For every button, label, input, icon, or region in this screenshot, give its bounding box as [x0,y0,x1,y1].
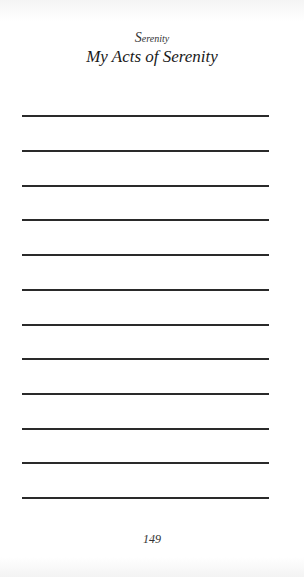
running-head-initial: S [135,30,142,45]
scan-bottom-edge [0,557,304,577]
writing-line [22,150,269,152]
writing-line [22,324,269,326]
writing-line [22,289,269,291]
page-title: My Acts of Serenity [0,47,304,67]
scan-top-edge [0,0,304,22]
page-number: 149 [0,532,304,547]
writing-line [22,497,269,499]
writing-line [22,254,269,256]
writing-line [22,358,269,360]
writing-line [22,185,269,187]
writing-line [22,462,269,464]
running-head: Serenity [0,30,304,46]
writing-line [22,393,269,395]
running-head-text: erenity [142,33,169,44]
writing-line [22,428,269,430]
writing-line [22,219,269,221]
writing-line [22,115,269,117]
